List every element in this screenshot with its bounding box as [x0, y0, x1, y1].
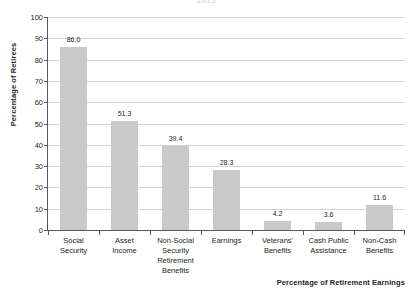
- y-tick-label: 60: [35, 98, 43, 107]
- x-category-label-line: Security: [150, 246, 201, 256]
- x-tick-mark: [404, 230, 405, 235]
- bar-value-label: 11.6: [373, 194, 386, 201]
- chart-title: 2012: [0, 0, 413, 3]
- x-tick-mark: [48, 230, 49, 235]
- x-category-label: Non-CashBenefits: [354, 236, 405, 256]
- gridline: [48, 38, 405, 39]
- x-category-label-line: Non-Social: [150, 236, 201, 246]
- bar[interactable]: [162, 146, 189, 230]
- x-category-label-line: Benefits: [150, 266, 201, 276]
- plot-area: 0102030405060708090100 86.051.339.428.34…: [48, 17, 405, 230]
- y-tick-label: 20: [35, 183, 43, 192]
- bar-value-label: 86.0: [67, 36, 81, 43]
- x-category-label-line: Benefits: [252, 246, 303, 256]
- x-category-label-line: Retirement: [150, 256, 201, 266]
- x-category-label-line: Non-Cash: [354, 236, 405, 246]
- gridline: [48, 145, 405, 146]
- y-tick-label: 80: [35, 55, 43, 64]
- x-category-label-line: Earnings: [201, 236, 252, 246]
- y-tick-label: 90: [35, 34, 43, 43]
- gridline: [48, 102, 405, 103]
- y-tick-mark: [44, 17, 48, 18]
- gridline: [48, 17, 405, 18]
- x-axis-line: [47, 230, 405, 231]
- gridline: [48, 166, 405, 167]
- x-tick-mark: [354, 230, 355, 235]
- y-tick-label: 40: [35, 140, 43, 149]
- gridline: [48, 124, 405, 125]
- x-tick-mark: [303, 230, 304, 235]
- x-tick-mark: [201, 230, 202, 235]
- y-tick-mark: [44, 60, 48, 61]
- bar-value-label: 51.3: [118, 110, 132, 117]
- y-tick-label: 30: [35, 162, 43, 171]
- x-category-label-line: Income: [99, 246, 150, 256]
- bar[interactable]: [213, 170, 240, 230]
- y-tick-mark: [44, 124, 48, 125]
- y-tick-mark: [44, 145, 48, 146]
- x-category-label: Cash PublicAssistance: [303, 236, 354, 256]
- x-category-label-line: Cash Public: [303, 236, 354, 246]
- bar-value-label: 39.4: [169, 135, 183, 142]
- x-category-label: Non-SocialSecurityRetirementBenefits: [150, 236, 201, 276]
- gridline: [48, 60, 405, 61]
- x-category-label-line: Security: [48, 246, 99, 256]
- y-tick-label: 10: [35, 204, 43, 213]
- x-category-label: AssetIncome: [99, 236, 150, 256]
- y-tick-mark: [44, 81, 48, 82]
- y-tick-mark: [44, 209, 48, 210]
- gridline: [48, 81, 405, 82]
- bar-chart: 2012 Percentage of Retirees 010203040506…: [0, 0, 413, 297]
- x-category-label-line: Assistance: [303, 246, 354, 256]
- y-tick-mark: [44, 187, 48, 188]
- x-tick-mark: [252, 230, 253, 235]
- bar[interactable]: [315, 222, 342, 230]
- bar-value-label: 4.2: [273, 210, 283, 217]
- y-tick-label: 70: [35, 76, 43, 85]
- y-tick-label: 100: [30, 13, 43, 22]
- y-axis-title: Percentage of Retirees: [9, 25, 18, 145]
- y-tick-mark: [44, 102, 48, 103]
- x-category-label-line: Benefits: [354, 246, 405, 256]
- x-category-label-line: Social: [48, 236, 99, 246]
- x-tick-mark: [150, 230, 151, 235]
- y-tick-mark: [44, 38, 48, 39]
- x-tick-mark: [99, 230, 100, 235]
- bar[interactable]: [111, 121, 138, 230]
- bar[interactable]: [60, 47, 87, 230]
- bar[interactable]: [264, 221, 291, 230]
- x-category-label: Veterans'Benefits: [252, 236, 303, 256]
- y-tick-label: 50: [35, 119, 43, 128]
- bar[interactable]: [366, 205, 393, 230]
- y-tick-label: 0: [39, 226, 43, 235]
- x-category-label-line: Asset: [99, 236, 150, 246]
- x-category-label: Earnings: [201, 236, 252, 246]
- x-axis-title: Percentage of Retirement Earnings: [277, 278, 405, 287]
- x-category-label: SocialSecurity: [48, 236, 99, 256]
- bar-value-label: 28.3: [220, 159, 234, 166]
- y-tick-mark: [44, 166, 48, 167]
- bar-value-label: 3.6: [324, 211, 334, 218]
- x-category-label-line: Veterans': [252, 236, 303, 246]
